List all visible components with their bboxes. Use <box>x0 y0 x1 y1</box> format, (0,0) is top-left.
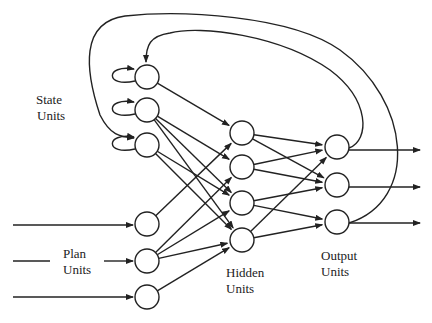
output-unit-2 <box>325 210 349 234</box>
connection-arrow <box>156 118 232 192</box>
connection-arrow <box>254 135 322 145</box>
connection-arrow <box>156 143 232 215</box>
state-unit-1 <box>135 98 159 122</box>
hidden-units-label-1: Hidden <box>226 265 265 280</box>
hidden-unit-2 <box>230 191 254 215</box>
connection-arrow <box>157 83 229 125</box>
output-units-label-2: Units <box>321 264 349 279</box>
output-unit-1 <box>325 173 349 197</box>
connection-arrow <box>157 211 229 255</box>
hidden-unit-0 <box>230 121 254 145</box>
state-units-label-2: Units <box>37 108 65 123</box>
connection-arrow <box>157 151 229 195</box>
connection-arrow <box>254 225 322 238</box>
output-arrows <box>349 150 420 223</box>
connection-arrow <box>157 248 229 291</box>
network-diagram: State Units Plan Units Hidden Units Outp… <box>0 0 432 323</box>
connection-arrow <box>254 150 323 164</box>
output-units-label-1: Output <box>321 248 358 263</box>
connection-arrow <box>159 243 228 258</box>
connection-arrow <box>253 139 324 178</box>
connection-arrow <box>156 178 232 253</box>
output-unit-0 <box>325 135 349 159</box>
hidden-units-label-2: Units <box>226 281 254 296</box>
plan-unit-0 <box>135 212 159 236</box>
connection-arrow <box>155 153 231 229</box>
connection-arrow <box>254 205 323 219</box>
state-unit-2 <box>135 133 159 157</box>
plan-unit-2 <box>135 285 159 309</box>
plan-unit-1 <box>135 249 159 273</box>
plan-units-label-2: Units <box>63 262 91 277</box>
hidden-unit-1 <box>230 155 254 179</box>
plan-units-label-1: Plan <box>63 246 87 261</box>
connection-arrow <box>251 157 327 231</box>
state-units-label-1: State <box>36 92 62 107</box>
plan-input-arrows <box>13 225 133 297</box>
connection-edges <box>154 83 326 291</box>
state-unit-0 <box>135 65 159 89</box>
hidden-unit-3 <box>230 228 254 252</box>
